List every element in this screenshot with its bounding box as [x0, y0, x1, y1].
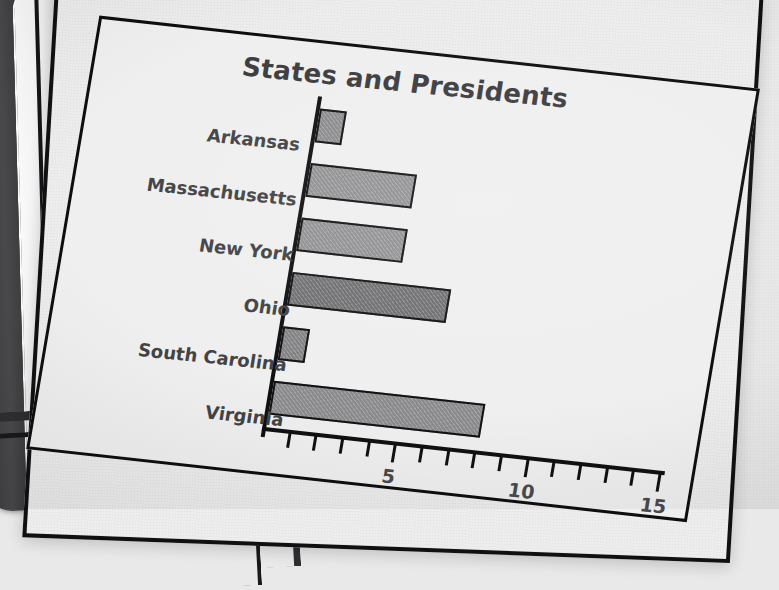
bar-texture [317, 111, 344, 143]
bar-texture [271, 383, 484, 436]
printed-page: States and Presidents ArkansasMassachuse… [22, 0, 763, 563]
bar-ohio [287, 272, 451, 323]
chart-container: States and Presidents ArkansasMassachuse… [21, 16, 779, 557]
bar-massachusetts [305, 163, 416, 208]
bar-virginia [268, 381, 485, 438]
plot-area: ArkansasMassachusettsNew YorkOhioSouth C… [262, 102, 714, 472]
x-axis-tick-label-10: 10 [506, 478, 536, 502]
bar-texture [308, 165, 415, 206]
bar-texture [289, 274, 449, 321]
bar-new-york [296, 217, 407, 262]
bar-arkansas [314, 109, 346, 146]
x-axis-tick-label-15: 15 [638, 493, 668, 517]
bar-texture [298, 220, 405, 261]
